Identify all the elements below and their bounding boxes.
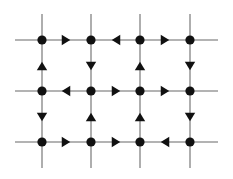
edge-arrow-v-c2-r1	[86, 62, 96, 71]
lattice-node-n34	[185, 137, 194, 146]
lattice-node-n13	[135, 35, 144, 44]
lattice-node-n21	[37, 86, 46, 95]
lattice-node-n11	[37, 35, 46, 44]
lattice-node-n31	[37, 137, 46, 146]
lattice-diagram	[0, 0, 233, 179]
edge-arrow-v-c4-r2	[185, 113, 195, 122]
edge-arrow-v-c3-r1	[135, 62, 145, 71]
edge-arrow-h-r3-c3	[161, 137, 170, 147]
edge-arrow-v-c1-r1	[37, 62, 47, 71]
edge-arrow-h-r1-c1	[62, 35, 71, 45]
lattice-node-n24	[185, 86, 194, 95]
edge-arrow-v-c3-r2	[135, 113, 145, 122]
lattice-node-n23	[135, 86, 144, 95]
edge-arrow-h-r3-c1	[62, 137, 71, 147]
edge-arrow-h-r1-c2	[112, 35, 121, 45]
edge-arrow-v-c4-r1	[185, 62, 195, 71]
lattice-node-n22	[86, 86, 95, 95]
lattice-node-n32	[86, 137, 95, 146]
edge-arrow-v-c2-r2	[86, 113, 96, 122]
edge-arrow-h-r2-c2	[112, 86, 121, 96]
lattice-canvas	[0, 0, 233, 179]
edge-arrow-h-r1-c3	[161, 35, 170, 45]
edge-arrow-h-r3-c2	[112, 137, 121, 147]
edge-arrow-v-c1-r2	[37, 113, 47, 122]
lattice-node-n33	[135, 137, 144, 146]
edge-arrow-h-r2-c3	[161, 86, 170, 96]
lattice-node-n12	[86, 35, 95, 44]
lattice-node-n14	[185, 35, 194, 44]
edge-arrow-h-r2-c1	[62, 86, 71, 96]
